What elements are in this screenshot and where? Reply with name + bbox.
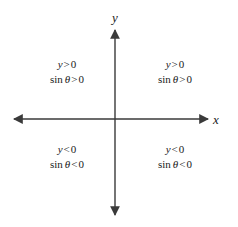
quadrant-2-operator: > <box>63 58 71 70</box>
quadrant-1-variable: y <box>166 58 171 70</box>
quadrant-2-line-2: sinθ>0 <box>25 72 109 87</box>
quadrant-1-value-2: 0 <box>186 73 192 85</box>
quadrant-3-line-1: y<0 <box>25 142 109 157</box>
quadrant-2-value: 0 <box>71 58 77 70</box>
quadrant-3-labels: y<0 sinθ<0 <box>25 142 109 172</box>
quadrant-4-labels: y<0 sinθ<0 <box>133 142 217 172</box>
quadrant-3-operator: < <box>63 143 71 155</box>
quadrant-4-function: sin <box>158 158 171 170</box>
quadrant-sign-diagram: y x y>0 sinθ>0 y>0 sinθ>0 y<0 sinθ<0 y<0… <box>0 0 238 227</box>
quadrant-4-variable: y <box>166 143 171 155</box>
quadrant-4-line-1: y<0 <box>133 142 217 157</box>
quadrant-2-value-2: 0 <box>78 73 84 85</box>
coordinate-axes <box>0 0 238 227</box>
quadrant-1-line-2: sinθ>0 <box>133 72 217 87</box>
quadrant-4-value-2: 0 <box>186 158 192 170</box>
quadrant-3-value-2: 0 <box>78 158 84 170</box>
quadrant-1-value: 0 <box>179 58 185 70</box>
quadrant-2-line-1: y>0 <box>25 57 109 72</box>
quadrant-4-line-2: sinθ<0 <box>133 157 217 172</box>
quadrant-1-function: sin <box>158 73 171 85</box>
quadrant-3-line-2: sinθ<0 <box>25 157 109 172</box>
quadrant-1-line-1: y>0 <box>133 57 217 72</box>
quadrant-1-operator: > <box>171 58 179 70</box>
quadrant-4-operator: < <box>171 143 179 155</box>
y-axis-label: y <box>108 11 122 24</box>
quadrant-3-value: 0 <box>71 143 77 155</box>
quadrant-1-labels: y>0 sinθ>0 <box>133 57 217 87</box>
quadrant-2-variable: y <box>58 58 63 70</box>
quadrant-4-value: 0 <box>179 143 185 155</box>
quadrant-2-function: sin <box>50 73 63 85</box>
quadrant-3-function: sin <box>50 158 63 170</box>
quadrant-2-labels: y>0 sinθ>0 <box>25 57 109 87</box>
quadrant-3-variable: y <box>58 143 63 155</box>
x-axis-label: x <box>213 113 219 126</box>
